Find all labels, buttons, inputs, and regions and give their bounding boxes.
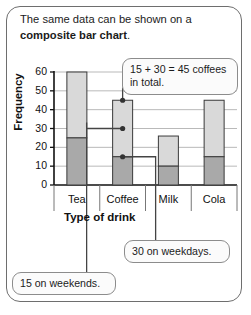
x-axis-tick-milk: Milk	[146, 193, 192, 205]
total-callout-text: 15 + 30 = 45 coffees in total.	[130, 63, 226, 88]
y-axis-tick: 60	[23, 65, 47, 77]
chart-plot-area	[0, 0, 251, 315]
x-axis-title: Type of drink	[64, 211, 135, 223]
x-axis-tick-tea: Tea	[54, 193, 100, 205]
total-callout: 15 + 30 = 45 coffees in total.	[122, 58, 238, 95]
weekends-callout: 15 on weekends.	[12, 272, 116, 295]
weekdays-callout-text: 30 on weekdays.	[132, 245, 212, 257]
composite-bar-chart: Frequency Type of drink 0102030405060Tea…	[0, 0, 251, 315]
weekends-callout-text: 15 on weekends.	[20, 277, 100, 289]
screenshot-root: The same data can be shown on a composit…	[0, 0, 251, 315]
y-axis-tick: 0	[23, 178, 47, 190]
x-axis-tick-cola: Cola	[191, 193, 237, 205]
y-axis-tick: 10	[23, 159, 47, 171]
y-axis-tick: 30	[23, 122, 47, 134]
x-axis-tick-coffee: Coffee	[100, 193, 146, 205]
y-axis-tick: 50	[23, 84, 47, 96]
weekdays-callout: 30 on weekdays.	[124, 240, 230, 263]
y-axis-tick: 20	[23, 140, 47, 152]
y-axis-tick: 40	[23, 103, 47, 115]
